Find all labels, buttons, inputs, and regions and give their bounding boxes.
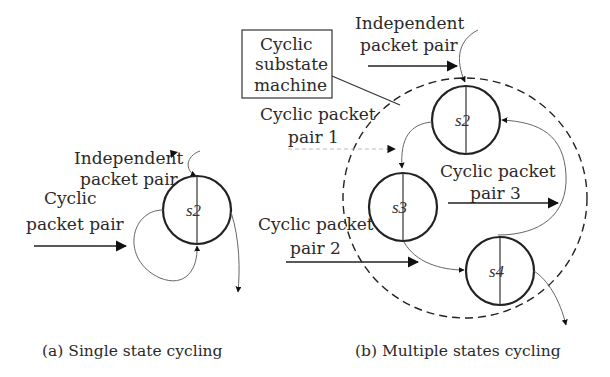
cyclic-packet-pair-2-label-line2: pair 2 (290, 238, 341, 258)
cyclic-packet-pair-label-a-line2: packet pair (26, 214, 125, 234)
state-node-s4: s4 (466, 237, 534, 305)
box-label-line2: substate (255, 54, 328, 74)
cyclic-packet-pair-3-label-line2: pair 3 (470, 183, 521, 203)
independent-input-curve-b (459, 30, 478, 82)
panel-b: Cyclic substate machine Independent pack… (242, 13, 587, 360)
cyclic-packet-pair-2-label: Cyclic packet (258, 214, 374, 234)
state-label-s2-a: s2 (186, 201, 202, 220)
independent-packet-pair-label-b: Independent (355, 13, 464, 33)
cyclic-packet-pair-label-a: Cyclic (44, 188, 97, 208)
state-node-s2-b: s2 (432, 86, 500, 154)
transition-s3-s4 (404, 242, 464, 270)
independent-packet-pair-label-a: Independent (74, 148, 183, 168)
box-pointer-line (332, 76, 400, 105)
state-label-s4: s4 (489, 262, 505, 281)
box-label-line1: Cyclic (260, 34, 313, 54)
state-label-s3: s3 (392, 198, 407, 217)
cyclic-packet-pair-3-label: Cyclic packet (440, 161, 556, 181)
exit-arrow-a (231, 212, 239, 292)
cyclic-packet-pair-1-label: Cyclic packet (260, 104, 376, 124)
state-node-s2-a: s2 (163, 176, 231, 244)
state-label-s2-b: s2 (455, 111, 471, 130)
independent-packet-pair-label-a-line2: packet pair (80, 169, 179, 189)
caption-b: (b) Multiple states cycling (355, 342, 561, 360)
box-label-line3: machine (254, 75, 327, 95)
independent-packet-pair-label-b-line2: packet pair (360, 35, 459, 55)
exit-arrow-b (534, 271, 566, 325)
caption-a: (a) Single state cycling (42, 342, 223, 360)
panel-a: Independent packet pair s2 Cyclic packet… (26, 148, 239, 360)
transition-s2-s3 (402, 122, 432, 168)
diagram-canvas: Independent packet pair s2 Cyclic packet… (0, 0, 610, 377)
independent-input-curve-a (188, 151, 200, 176)
cyclic-packet-pair-1-label-line2: pair 1 (288, 127, 339, 147)
state-node-s3: s3 (369, 173, 437, 241)
